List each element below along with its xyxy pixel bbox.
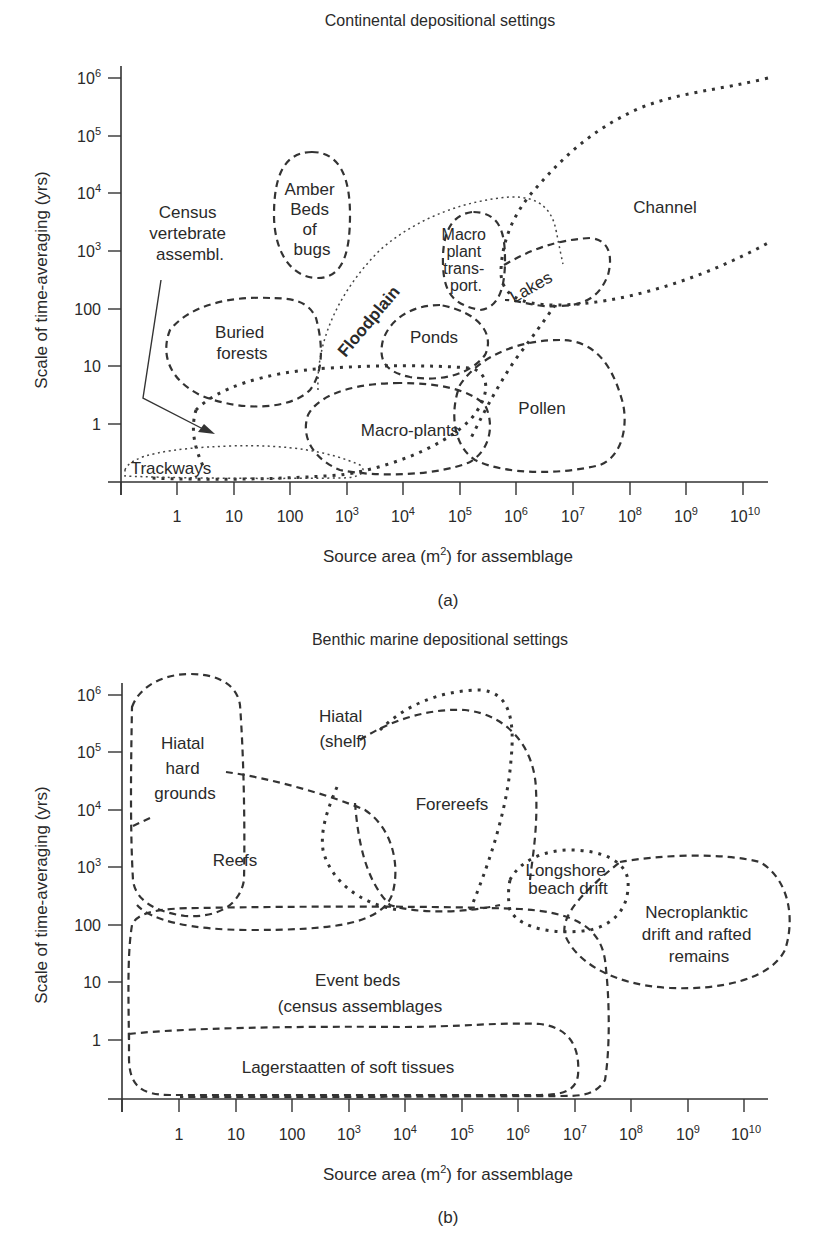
- panel-a-y-axis-label: Scale of time-averaging (yrs): [32, 171, 51, 388]
- svg-text:10: 10: [83, 974, 101, 991]
- svg-text:1: 1: [175, 1126, 184, 1143]
- svg-text:1: 1: [92, 1032, 101, 1049]
- panel-a-x-ticks: [121, 482, 743, 495]
- svg-text:1010: 1010: [730, 505, 760, 525]
- svg-text:100: 100: [74, 301, 101, 318]
- svg-text:10: 10: [227, 1126, 245, 1143]
- label-lakes: Lakes: [507, 268, 556, 307]
- svg-text:1: 1: [173, 508, 182, 525]
- svg-text:10: 10: [83, 358, 101, 375]
- svg-text:1: 1: [92, 416, 101, 433]
- svg-text:106: 106: [506, 1123, 530, 1143]
- label-hiatal-hard-grounds: Hiatal hard grounds: [154, 734, 215, 803]
- label-macro-plant-transport: Macro plant trans- port.: [442, 226, 491, 294]
- svg-text:109: 109: [674, 505, 698, 525]
- svg-text:103: 103: [337, 1123, 361, 1143]
- label-amber: Amber Beds of bugs: [285, 180, 340, 259]
- svg-text:106: 106: [504, 505, 528, 525]
- svg-text:108: 108: [618, 505, 642, 525]
- panel-a-x-axis-label: Source area (m2) for assemblage: [323, 545, 573, 566]
- panel-b-y-tick-labels: 106 105 104 103 100 10 1: [74, 684, 101, 1049]
- figure-canvas: Continental depositional settings Scale …: [0, 0, 826, 1255]
- svg-text:104: 104: [391, 505, 415, 525]
- label-macro-plants: Macro-plants: [361, 421, 459, 440]
- svg-text:105: 105: [448, 505, 472, 525]
- svg-text:105: 105: [77, 125, 101, 145]
- svg-text:107: 107: [561, 505, 585, 525]
- label-buried-forests: Buried forests: [215, 323, 269, 363]
- svg-text:105: 105: [450, 1123, 474, 1143]
- svg-text:108: 108: [619, 1123, 643, 1143]
- panel-b-y-axis-label: Scale of time-averaging (yrs): [32, 786, 51, 1003]
- svg-text:109: 109: [676, 1123, 700, 1143]
- region-channel-lower: [470, 305, 555, 440]
- panel-b-x-axis-label: Source area (m2) for assemblage: [323, 1163, 573, 1184]
- panel-b-title: Benthic marine depositional settings: [312, 631, 568, 648]
- label-longshore: Longshore beach drift: [525, 861, 610, 898]
- svg-text:103: 103: [77, 856, 101, 876]
- panel-a-title: Continental depositional settings: [325, 12, 555, 29]
- panel-a-y-ticks: [108, 78, 121, 424]
- svg-text:1010: 1010: [731, 1123, 761, 1143]
- svg-text:106: 106: [77, 684, 101, 704]
- panel-b-x-ticks: [122, 1099, 744, 1112]
- panel-b-y-ticks: [108, 695, 122, 1040]
- label-forereefs: Forereefs: [416, 795, 489, 814]
- panel-a-caption: (a): [438, 591, 459, 610]
- svg-text:105: 105: [77, 741, 101, 761]
- svg-text:100: 100: [279, 1126, 306, 1143]
- svg-text:100: 100: [277, 508, 304, 525]
- svg-text:106: 106: [77, 67, 101, 87]
- svg-text:104: 104: [77, 182, 101, 202]
- panel-b-caption: (b): [438, 1208, 459, 1227]
- panel-a-x-tick-labels: 1 10 100 103 104 105 106 107 108 109 101…: [173, 505, 760, 525]
- label-lagerstaatten: Lagerstaatten of soft tissues: [242, 1058, 455, 1077]
- label-pollen: Pollen: [518, 399, 565, 418]
- svg-text:103: 103: [335, 505, 359, 525]
- svg-text:104: 104: [77, 799, 101, 819]
- panel-a: Continental depositional settings Scale …: [32, 12, 768, 610]
- census-arrow: [143, 280, 205, 430]
- label-channel: Channel: [633, 198, 696, 217]
- label-ponds: Ponds: [410, 328, 458, 347]
- panel-b-x-tick-labels: 1 10 100 103 104 105 106 107 108 109 101…: [175, 1123, 761, 1143]
- svg-text:107: 107: [563, 1123, 587, 1143]
- svg-text:104: 104: [393, 1123, 417, 1143]
- label-necroplanktic: Necroplanktic drift and rafted remains: [642, 903, 756, 966]
- panel-b: Benthic marine depositional settings Sca…: [32, 631, 790, 1227]
- label-hiatal-shelf: Hiatal (shelf): [319, 707, 367, 751]
- label-event-beds: Event beds (census assemblages: [278, 971, 442, 1016]
- svg-text:10: 10: [225, 508, 243, 525]
- label-reefs: Reefs: [213, 851, 257, 870]
- arrowhead-icon: [198, 424, 215, 434]
- svg-text:103: 103: [77, 240, 101, 260]
- label-census: Census vertebrate assembl.: [149, 203, 230, 264]
- panel-a-y-tick-labels: 106 105 104 103 100 10 1: [74, 67, 101, 433]
- svg-text:100: 100: [74, 917, 101, 934]
- label-trackways: Trackways: [131, 459, 212, 478]
